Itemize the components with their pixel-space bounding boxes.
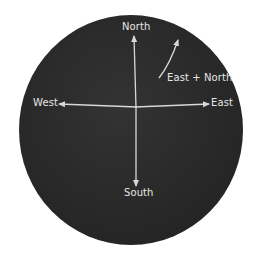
label-east-north: East + North <box>167 72 232 83</box>
label-north: North <box>122 21 150 32</box>
label-west: West <box>33 97 58 108</box>
label-east: East <box>211 97 233 108</box>
compass-disc <box>19 15 243 245</box>
compass-diagram: North East + North West East South <box>0 0 254 264</box>
compass-graphic <box>0 0 254 264</box>
label-south: South <box>124 187 154 198</box>
